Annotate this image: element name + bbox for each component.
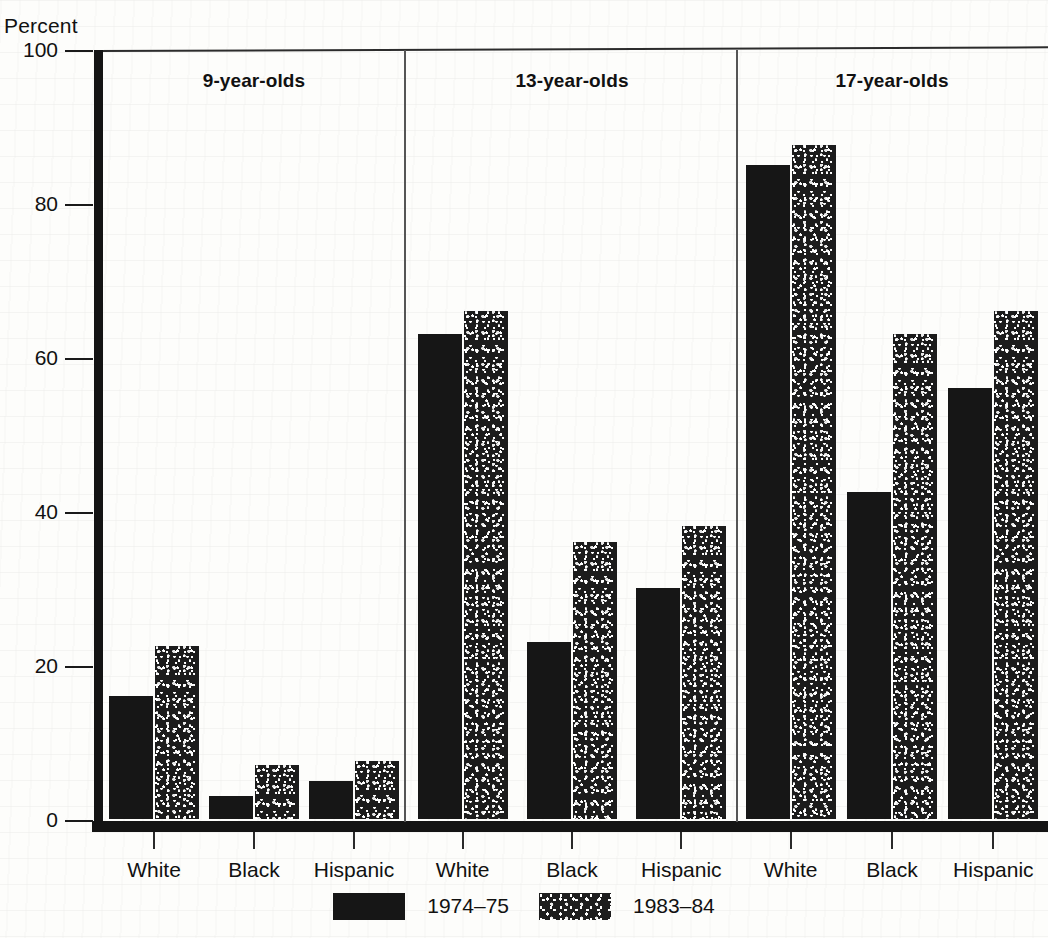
y-tick-80 (65, 204, 93, 206)
bar-9-year-olds-White-1983–84 (155, 646, 199, 819)
legend-label-2: 1983–84 (633, 894, 715, 918)
bar-17-year-olds-White-1983–84 (792, 145, 836, 819)
y-tick-label-80: 80 (0, 192, 58, 216)
bar-9-year-olds-White-1974–75 (109, 696, 153, 819)
y-tick-60 (65, 358, 93, 360)
plot-area: 020406080100 9-year-olds13-year-olds17-y… (96, 50, 1048, 823)
y-axis-line (94, 50, 103, 825)
bar-chart: Percent 020406080100 9-year-olds13-year-… (0, 0, 1048, 938)
y-tick-label-40: 40 (0, 500, 58, 524)
legend-item-1[interactable]: 1974–75 (333, 893, 509, 920)
x-category-label-hispanic-3: Hispanic (928, 858, 1048, 882)
x-tick-1 (253, 832, 255, 849)
group-heading-3: 17-year-olds (740, 70, 1044, 92)
y-tick-label-60: 60 (0, 346, 58, 370)
x-tick-7 (891, 832, 893, 849)
x-tick-5 (680, 832, 682, 849)
bar-9-year-olds-Black-1983–84 (255, 765, 299, 819)
y-tick-100 (65, 50, 93, 52)
bar-9-year-olds-Black-1974–75 (209, 796, 253, 819)
y-tick-label-20: 20 (0, 654, 58, 678)
x-tick-3 (462, 832, 464, 849)
x-tick-8 (992, 832, 994, 849)
bar-17-year-olds-Black-1983–84 (893, 334, 937, 819)
bar-9-year-olds-Hispanic-1974–75 (309, 781, 353, 820)
x-axis-line (92, 821, 1048, 832)
x-tick-2 (353, 832, 355, 849)
bar-13-year-olds-Black-1983–84 (573, 542, 617, 819)
plot-top-border (96, 46, 1048, 52)
y-tick-40 (65, 512, 93, 514)
group-heading-2: 13-year-olds (408, 70, 736, 92)
bar-13-year-olds-Hispanic-1983–84 (682, 526, 726, 819)
bar-9-year-olds-Hispanic-1983–84 (355, 761, 399, 819)
speckled-swatch (539, 893, 611, 920)
bar-17-year-olds-White-1974–75 (746, 165, 790, 820)
y-axis-title: Percent (4, 14, 78, 38)
bar-13-year-olds-White-1974–75 (418, 334, 462, 819)
group-heading-1: 9-year-olds (104, 70, 404, 92)
bar-17-year-olds-Hispanic-1983–84 (994, 311, 1038, 819)
legend: 1974–751983–84 (0, 884, 1048, 928)
group-separator-2 (736, 50, 738, 822)
legend-label-1: 1974–75 (427, 894, 509, 918)
bar-17-year-olds-Hispanic-1974–75 (948, 388, 992, 819)
bar-17-year-olds-Black-1974–75 (847, 492, 891, 819)
legend-item-2[interactable]: 1983–84 (539, 893, 715, 920)
x-tick-0 (153, 832, 155, 849)
bar-13-year-olds-White-1983–84 (464, 311, 508, 819)
solid-black-swatch (333, 893, 405, 920)
y-tick-0 (65, 820, 93, 822)
x-tick-6 (790, 832, 792, 849)
group-separator-1 (404, 50, 406, 822)
y-tick-label-100: 100 (0, 38, 58, 62)
x-tick-4 (571, 832, 573, 849)
bar-13-year-olds-Black-1974–75 (527, 642, 571, 819)
y-tick-20 (65, 666, 93, 668)
bar-13-year-olds-Hispanic-1974–75 (636, 588, 680, 819)
y-tick-label-0: 0 (0, 808, 58, 832)
